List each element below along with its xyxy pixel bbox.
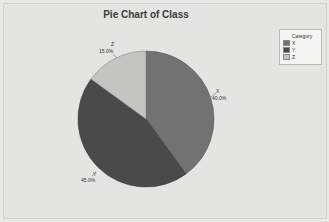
legend-swatch-z [283, 54, 290, 60]
legend-item-x[interactable]: X [283, 40, 295, 46]
leader-z [113, 54, 117, 58]
legend-item-y[interactable]: Y [283, 47, 295, 53]
label-z-name: Z [111, 41, 114, 47]
legend-label-y: Y [292, 47, 295, 53]
label-x-pct: 40.0% [212, 95, 227, 101]
legend-swatch-y [283, 47, 290, 53]
label-z-pct: 15.0% [99, 48, 114, 54]
label-x-name: X [216, 88, 220, 94]
legend-title: Category [292, 33, 312, 39]
chart-legend: Category X Y Z [279, 29, 322, 65]
legend-label-z: Z [292, 54, 295, 60]
legend-swatch-x [283, 40, 290, 46]
legend-label-x: X [292, 40, 295, 46]
label-y-pct: 45.0% [81, 177, 96, 183]
legend-item-z[interactable]: Z [283, 54, 295, 60]
